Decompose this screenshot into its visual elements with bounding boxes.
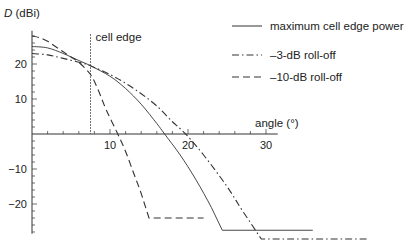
y-axis-label: D (dBi) [4,7,40,19]
y-tick-label: −20 [8,198,27,210]
legend-label: –3-dB roll-off [270,49,336,61]
y-tick-label: −10 [8,163,27,175]
y-tick-label: 20 [15,58,27,70]
cell-edge-label: cell edge [96,31,142,43]
legend-label: –10-dB roll-off [270,71,343,83]
x-tick-label: 10 [104,139,116,151]
legend-label: maximum cell edge power [270,20,404,32]
x-axis-label: angle (°) [255,117,299,129]
plot-area: cell edge [32,31,367,240]
x-tick-label: 20 [182,139,194,151]
y-tick-label: 10 [15,93,27,105]
series-line-dashed [32,36,204,218]
x-tick-label: 30 [260,139,272,151]
antenna-directivity-chart: 2010−10−20102030D (dBi)angle (°) cell ed… [0,0,407,247]
legend: maximum cell edge power–3-dB roll-off–10… [232,20,404,83]
